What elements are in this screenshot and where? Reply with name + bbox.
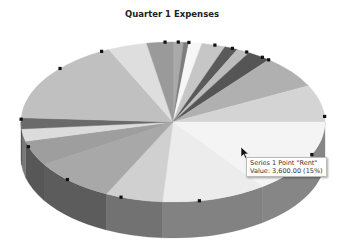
- selection-handle[interactable]: [163, 41, 166, 44]
- selection-handle[interactable]: [261, 56, 264, 59]
- selection-handle[interactable]: [19, 118, 22, 121]
- selection-handle[interactable]: [198, 199, 201, 202]
- tooltip-value: Value: 3,600.00 (15%): [250, 167, 323, 175]
- selection-handle[interactable]: [177, 40, 180, 43]
- selection-handle[interactable]: [58, 67, 61, 70]
- pie-chart-3d[interactable]: [0, 0, 344, 251]
- selection-handle[interactable]: [245, 50, 248, 53]
- selection-handle[interactable]: [27, 145, 30, 148]
- tooltip-series-point: Series 1 Point "Rent": [250, 159, 323, 167]
- selection-handle[interactable]: [119, 196, 122, 199]
- data-point-tooltip: Series 1 Point "Rent" Value: 3,600.00 (1…: [246, 157, 327, 177]
- selection-handle[interactable]: [187, 41, 190, 44]
- selection-handle[interactable]: [100, 50, 103, 53]
- selection-handle[interactable]: [66, 178, 69, 181]
- selection-handle[interactable]: [231, 47, 234, 50]
- selection-handle[interactable]: [310, 153, 313, 156]
- selection-handle[interactable]: [267, 58, 270, 61]
- selection-handle[interactable]: [213, 43, 216, 46]
- selection-handle[interactable]: [323, 115, 326, 118]
